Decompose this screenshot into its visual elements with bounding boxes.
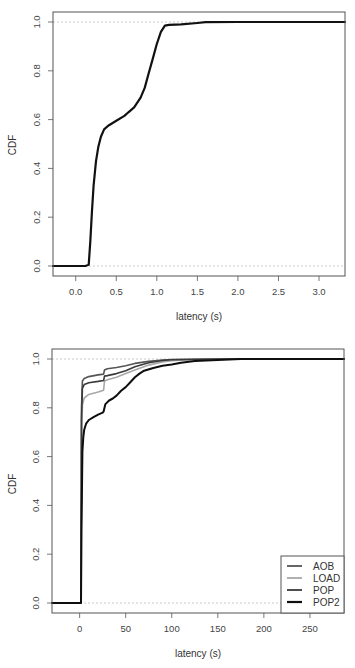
x-tick-label: 150 [210, 623, 226, 634]
x-tick-label: 1.0 [150, 286, 163, 297]
bottom-x-axis: 050100150200250 [77, 613, 318, 634]
bottom-cdf-chart: 050100150200250 0.00.20.40.60.81.0 AOB L… [0, 334, 355, 668]
top-plot-frame [53, 12, 345, 276]
y-tick-label: 0.2 [30, 548, 41, 561]
top-x-axis-title: latency (s) [176, 311, 222, 322]
x-tick-label: 250 [302, 623, 318, 634]
x-tick-label: 2.5 [272, 286, 285, 297]
legend: AOB LOAD POP POP2 [281, 556, 344, 613]
bottom-x-axis-title: latency (s) [175, 648, 221, 659]
y-tick-label: 1.0 [30, 352, 41, 365]
legend-label-pop: POP [313, 585, 334, 596]
top-chart-svg: 0.00.51.01.52.02.53.0 0.00.20.40.60.81.0… [0, 0, 355, 330]
x-tick-label: 1.5 [191, 286, 204, 297]
bottom-y-axis: 0.00.20.40.60.81.0 [30, 352, 52, 609]
x-tick-label: 2.0 [231, 286, 244, 297]
y-tick-label: 0.4 [31, 162, 42, 175]
y-tick-label: 0.8 [30, 401, 41, 414]
y-tick-label: 0.8 [31, 64, 42, 77]
bottom-chart-svg: 050100150200250 0.00.20.40.60.81.0 AOB L… [0, 334, 355, 668]
series-cdf [53, 22, 345, 266]
top-cdf-chart: 0.00.51.01.52.02.53.0 0.00.20.40.60.81.0… [0, 0, 355, 330]
x-tick-label: 100 [164, 623, 180, 634]
y-tick-label: 0.4 [30, 499, 41, 512]
top-x-axis: 0.00.51.01.52.02.53.0 [69, 276, 326, 297]
x-tick-label: 50 [120, 623, 131, 634]
x-tick-label: 0 [77, 623, 82, 634]
top-reference-lines [53, 22, 345, 266]
x-tick-label: 0.0 [69, 286, 82, 297]
y-tick-label: 0.6 [31, 113, 42, 126]
y-tick-label: 0.2 [31, 211, 42, 224]
y-tick-label: 0.6 [30, 450, 41, 463]
legend-label-load: LOAD [313, 573, 340, 584]
top-y-axis: 0.00.20.40.60.81.0 [31, 15, 53, 272]
top-series [53, 22, 345, 266]
y-tick-label: 0.0 [31, 259, 42, 272]
top-y-axis-title: CDF [7, 135, 18, 156]
x-tick-label: 3.0 [312, 286, 325, 297]
y-tick-label: 0.0 [30, 596, 41, 609]
x-tick-label: 0.5 [110, 286, 123, 297]
legend-label-pop2: POP2 [313, 597, 340, 608]
legend-label-aob: AOB [313, 561, 334, 572]
y-tick-label: 1.0 [31, 15, 42, 28]
bottom-y-axis-title: CDF [7, 474, 18, 495]
x-tick-label: 200 [256, 623, 272, 634]
